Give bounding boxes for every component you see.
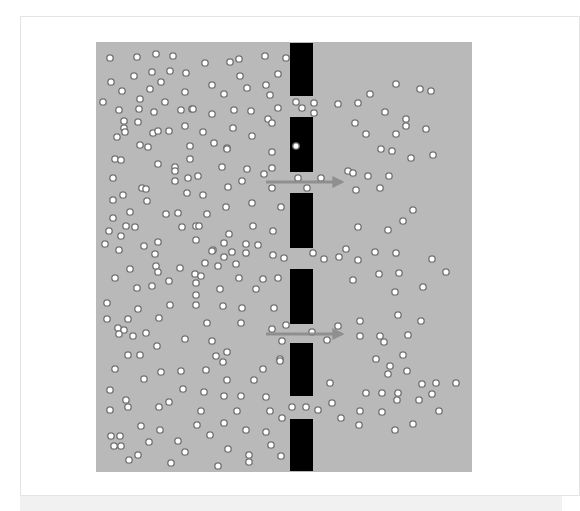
particle (355, 100, 361, 106)
particle (416, 397, 422, 403)
particle (182, 89, 188, 95)
membrane-segment (290, 193, 313, 248)
particle (170, 53, 176, 59)
particle (395, 390, 401, 396)
particle (125, 404, 131, 410)
particle (268, 442, 274, 448)
particle (223, 204, 229, 210)
particle (215, 463, 221, 469)
particle (379, 409, 385, 415)
particle (243, 241, 249, 247)
particle (224, 146, 230, 152)
particle (246, 452, 252, 458)
particle (194, 422, 200, 428)
particle (271, 305, 277, 311)
particle (289, 404, 295, 410)
particle (200, 192, 206, 198)
particle (143, 330, 149, 336)
particle (356, 422, 362, 428)
particle (429, 391, 435, 397)
particle (403, 123, 409, 129)
particle (376, 271, 382, 277)
particle (178, 107, 184, 113)
particle (193, 292, 199, 298)
particle (125, 316, 131, 322)
particle (429, 256, 435, 262)
particle (373, 356, 379, 362)
particle (123, 397, 129, 403)
particle (155, 239, 161, 245)
particle (417, 86, 423, 92)
particle (183, 70, 189, 76)
particle (146, 439, 152, 445)
particle (120, 192, 126, 198)
particle (270, 252, 276, 258)
particle (118, 443, 124, 449)
particle (193, 280, 199, 286)
particle (147, 86, 153, 92)
particle (283, 322, 289, 328)
particle (108, 79, 114, 85)
particle (104, 300, 110, 306)
particle (343, 246, 349, 252)
particle (443, 269, 449, 275)
particle (215, 263, 221, 269)
particle (135, 306, 141, 312)
particle (410, 207, 416, 213)
particle (220, 359, 226, 365)
particle (227, 59, 233, 65)
particle (327, 380, 333, 386)
particle (127, 209, 133, 215)
particle (420, 284, 426, 290)
particle (172, 178, 178, 184)
particle (219, 164, 225, 170)
particle (365, 173, 371, 179)
particle (221, 254, 227, 260)
particle (156, 404, 162, 410)
particle (123, 223, 129, 229)
particle (175, 210, 181, 216)
particle (126, 457, 132, 463)
particle (270, 228, 276, 234)
particle (321, 256, 327, 262)
particle (118, 233, 124, 239)
particle (363, 131, 369, 137)
particle (279, 338, 285, 344)
particle (233, 261, 239, 267)
particle (248, 108, 254, 114)
particle (117, 433, 123, 439)
particle (267, 92, 273, 98)
particle (237, 73, 243, 79)
particle (114, 134, 120, 140)
particle (106, 228, 112, 234)
particle (209, 338, 215, 344)
particle (244, 166, 250, 172)
particle (224, 349, 230, 355)
particle (418, 318, 424, 324)
particle (217, 286, 223, 292)
particle (112, 156, 118, 162)
particle (408, 155, 414, 161)
particle (278, 453, 284, 459)
particle (246, 459, 252, 465)
particle (131, 73, 137, 79)
particle (125, 352, 131, 358)
particle (209, 111, 215, 117)
particle (104, 316, 110, 322)
particle (177, 265, 183, 271)
particle (110, 175, 116, 181)
particle (211, 140, 217, 146)
particle (357, 318, 363, 324)
particle (382, 109, 388, 115)
particle (134, 54, 140, 60)
particle (357, 333, 363, 339)
particle (428, 88, 434, 94)
particle (151, 109, 157, 115)
particle (195, 173, 201, 179)
particle (311, 100, 317, 106)
particle (198, 408, 204, 414)
particle (157, 427, 163, 433)
particle (135, 452, 141, 458)
particle (269, 165, 275, 171)
particle (275, 71, 281, 77)
